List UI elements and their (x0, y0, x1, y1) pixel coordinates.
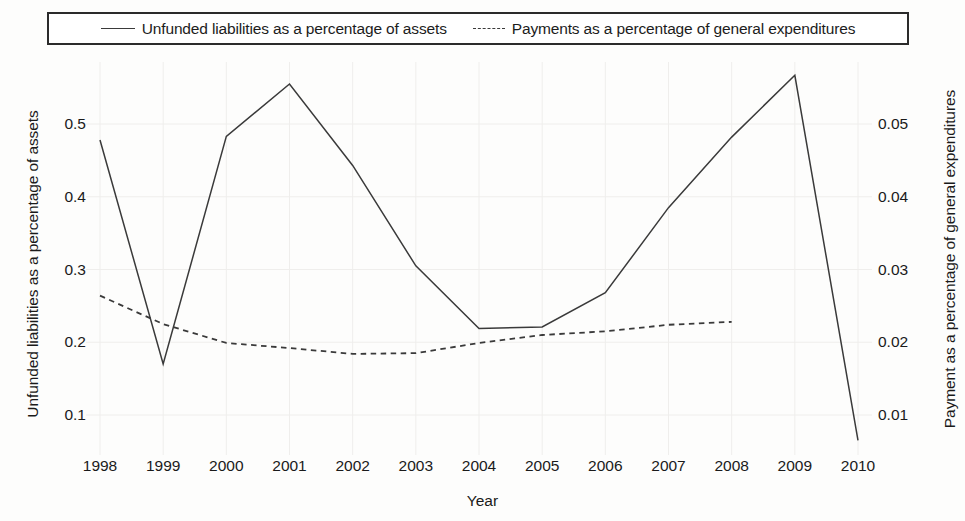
x-axis-tick-label: 2002 (335, 457, 369, 475)
x-axis-title: Year (0, 492, 965, 510)
x-axis-tick-label: 2001 (272, 457, 306, 475)
gridlines (86, 62, 872, 455)
x-axis-tick-label: 2000 (209, 457, 243, 475)
x-axis-tick-label: 2005 (525, 457, 559, 475)
y-axis-right-tick-label: 0.04 (878, 188, 940, 206)
y-axis-right-ticks: 0.010.020.030.040.05 (878, 0, 940, 521)
x-axis-tick-label: 2004 (462, 457, 496, 475)
y-axis-right-title: Payment as a percentage of general expen… (941, 49, 959, 469)
x-axis-tick-label: 1999 (146, 457, 180, 475)
x-axis-tick-label: 1998 (83, 457, 117, 475)
y-axis-right-tick-label: 0.05 (878, 115, 940, 133)
chart-figure: Unfunded liabilities as a percentage of … (0, 0, 965, 521)
x-axis-tick-label: 2008 (714, 457, 748, 475)
y-axis-right-tick-label: 0.02 (878, 333, 940, 351)
x-axis-tick-label: 2006 (588, 457, 622, 475)
y-axis-right-tick-label: 0.01 (878, 406, 940, 424)
x-axis-ticks: 1998199920002001200220032004200520062007… (0, 457, 965, 481)
x-axis-tick-label: 2007 (651, 457, 685, 475)
y-axis-right-tick-label: 0.03 (878, 261, 940, 279)
plot-area (0, 0, 965, 521)
x-axis-tick-label: 2003 (399, 457, 433, 475)
x-axis-tick-label: 2010 (841, 457, 875, 475)
y-axis-left-title: Unfunded liabilities as a percentage of … (24, 64, 42, 464)
x-axis-tick-label: 2009 (778, 457, 812, 475)
